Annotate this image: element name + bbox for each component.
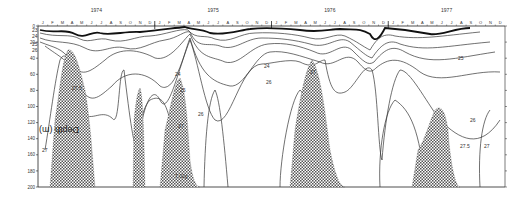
svg-text:N: N bbox=[139, 20, 142, 25]
svg-text:40: 40 bbox=[30, 56, 36, 61]
svg-text:O: O bbox=[479, 20, 482, 25]
svg-text:J: J bbox=[392, 20, 394, 25]
svg-text:200: 200 bbox=[27, 185, 35, 190]
svg-text:27.5: 27.5 bbox=[460, 143, 470, 149]
svg-text:24: 24 bbox=[175, 71, 181, 77]
svg-text:N: N bbox=[489, 20, 492, 25]
svg-text:J: J bbox=[324, 20, 326, 25]
svg-text:F: F bbox=[285, 20, 288, 25]
svg-text:A: A bbox=[460, 20, 463, 25]
svg-text:J: J bbox=[207, 20, 209, 25]
svg-text:S: S bbox=[470, 20, 473, 25]
svg-text:M: M bbox=[314, 20, 317, 25]
svg-text:27: 27 bbox=[310, 69, 316, 75]
svg-text:N: N bbox=[372, 20, 375, 25]
svg-text:27.5: 27.5 bbox=[72, 85, 82, 91]
depth-label: Depth (m) bbox=[19, 125, 99, 135]
svg-text:1976: 1976 bbox=[324, 7, 335, 13]
svg-text:A: A bbox=[304, 20, 307, 25]
svg-text:1977: 1977 bbox=[441, 7, 452, 13]
shaded-regions bbox=[50, 50, 460, 187]
svg-text:27: 27 bbox=[42, 147, 48, 153]
svg-text:J: J bbox=[42, 20, 44, 25]
svg-text:26: 26 bbox=[198, 111, 204, 117]
svg-text:D: D bbox=[265, 20, 268, 25]
svg-text:J: J bbox=[100, 20, 102, 25]
svg-text:A: A bbox=[343, 20, 346, 25]
contour-chart: 0204060801001201401601802001974JFMAMJJAS… bbox=[0, 0, 521, 198]
svg-text:25: 25 bbox=[458, 55, 464, 61]
svg-text:A: A bbox=[187, 20, 190, 25]
svg-text:M: M bbox=[61, 20, 64, 25]
svg-text:J: J bbox=[450, 20, 452, 25]
svg-text:D: D bbox=[382, 20, 385, 25]
svg-text:J: J bbox=[441, 20, 443, 25]
svg-text:M: M bbox=[411, 20, 414, 25]
svg-text:O: O bbox=[246, 20, 249, 25]
svg-text:160: 160 bbox=[27, 152, 35, 157]
svg-text:D: D bbox=[148, 20, 151, 25]
svg-text:100: 100 bbox=[27, 104, 35, 109]
svg-text:180: 180 bbox=[27, 169, 35, 174]
svg-text:1975: 1975 bbox=[208, 7, 219, 13]
svg-text:M: M bbox=[430, 20, 433, 25]
svg-text:S: S bbox=[353, 20, 356, 25]
svg-text:7.02g: 7.02g bbox=[175, 173, 188, 179]
svg-text:27: 27 bbox=[484, 143, 490, 149]
svg-text:A: A bbox=[110, 20, 113, 25]
svg-text:A: A bbox=[226, 20, 229, 25]
svg-text:27: 27 bbox=[178, 123, 184, 129]
svg-text:24: 24 bbox=[32, 33, 38, 39]
svg-text:S: S bbox=[236, 20, 239, 25]
svg-text:O: O bbox=[362, 20, 365, 25]
svg-text:J: J bbox=[159, 20, 161, 25]
svg-text:24: 24 bbox=[264, 63, 270, 69]
svg-text:60: 60 bbox=[30, 72, 36, 77]
svg-text:A: A bbox=[421, 20, 424, 25]
svg-text:S: S bbox=[119, 20, 122, 25]
svg-text:N: N bbox=[255, 20, 258, 25]
svg-text:26: 26 bbox=[32, 47, 38, 53]
svg-text:M: M bbox=[294, 20, 297, 25]
svg-text:F: F bbox=[51, 20, 54, 25]
svg-text:F: F bbox=[168, 20, 171, 25]
y-axis-title: ↓ Depth (m) bbox=[4, 60, 24, 160]
svg-text:O: O bbox=[129, 20, 132, 25]
svg-text:A: A bbox=[71, 20, 74, 25]
svg-text:M: M bbox=[177, 20, 180, 25]
svg-text:F: F bbox=[402, 20, 405, 25]
svg-text:J: J bbox=[91, 20, 93, 25]
svg-text:D: D bbox=[499, 20, 502, 25]
svg-text:80: 80 bbox=[30, 88, 36, 93]
svg-text:J: J bbox=[217, 20, 219, 25]
svg-text:1974: 1974 bbox=[91, 7, 102, 13]
svg-text:140: 140 bbox=[27, 136, 35, 141]
svg-text:J: J bbox=[334, 20, 336, 25]
svg-text:26: 26 bbox=[266, 79, 272, 85]
svg-text:M: M bbox=[80, 20, 83, 25]
svg-text:M: M bbox=[197, 20, 200, 25]
svg-text:J: J bbox=[275, 20, 277, 25]
svg-text:26: 26 bbox=[470, 117, 476, 123]
svg-text:25: 25 bbox=[180, 87, 186, 93]
